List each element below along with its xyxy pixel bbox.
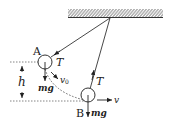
pendulum-diagram: h A T mg v0 B T mg v — [0, 0, 174, 127]
tension-arrow-a — [54, 51, 60, 55]
gravity-b-label: mg — [91, 108, 107, 118]
tension-b-label: T — [96, 75, 105, 88]
point-a-label: A — [32, 45, 42, 58]
ceiling-support — [68, 9, 163, 18]
gravity-a-label: mg — [38, 83, 54, 93]
velocity-arrow-a — [51, 72, 58, 79]
tension-a-label: T — [56, 56, 65, 69]
velocity-a-label: v0 — [60, 75, 69, 85]
height-label: h — [18, 75, 26, 89]
velocity-b-label: v — [114, 95, 119, 105]
point-b-label: B — [76, 107, 84, 120]
